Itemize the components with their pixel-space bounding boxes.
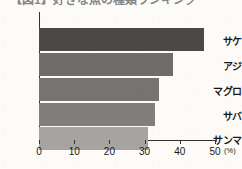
category-label-アジ: アジ: [206, 58, 242, 73]
bar-row: [39, 103, 155, 126]
x-axis-unit-label: (%): [224, 146, 236, 155]
category-label-サケ: サケ: [206, 33, 242, 48]
x-tick-mark: [180, 140, 181, 144]
x-tick-label: 40: [174, 146, 185, 157]
bar-chart: 【図1】好きな魚の種類ランキング サケアジマグロサバサンマ01020304050…: [0, 0, 242, 169]
x-tick-mark: [74, 140, 75, 144]
x-tick-label: 10: [69, 146, 80, 157]
page-title: 【図1】好きな魚の種類ランキング: [10, 0, 197, 7]
category-label-サバ: サバ: [206, 108, 242, 123]
bar-サバ: [39, 103, 155, 126]
bar-row: [39, 78, 159, 101]
x-tick-mark: [109, 140, 110, 144]
bar-row: [39, 127, 148, 150]
bar-アジ: [39, 53, 173, 76]
plot-area: [39, 13, 215, 138]
x-tick-mark: [145, 140, 146, 144]
x-tick-mark: [39, 140, 40, 144]
x-tick-label: 20: [104, 146, 115, 157]
bar-サンマ: [39, 127, 148, 150]
x-tick-label: 0: [36, 146, 42, 157]
bar-マグロ: [39, 78, 159, 101]
bar-サケ: [39, 28, 204, 51]
x-tick-label: 30: [139, 146, 150, 157]
chart-title-strip: 【図1】好きな魚の種類ランキング: [0, 0, 242, 7]
category-label-サンマ: サンマ: [206, 132, 242, 147]
bar-row: [39, 28, 204, 51]
bar-row: [39, 53, 173, 76]
x-tick-label: 50: [209, 146, 220, 157]
category-label-マグロ: マグロ: [206, 83, 242, 98]
x-tick-mark: [215, 140, 216, 144]
